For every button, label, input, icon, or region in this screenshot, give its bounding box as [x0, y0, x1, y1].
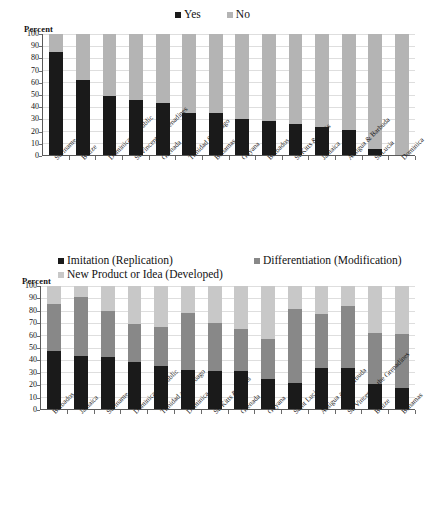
y-axis-tick-label: 0 [17, 406, 37, 414]
bar-segment [368, 286, 382, 333]
bar-segment [341, 286, 355, 306]
chart-one-legend: YesNo [0, 8, 425, 21]
bar-segment [128, 286, 142, 324]
chart-two-bars [41, 286, 415, 409]
legend-item: No [227, 8, 250, 21]
legend-swatch-icon [58, 258, 64, 264]
stacked-bar [395, 34, 409, 155]
chart-one-plot [42, 34, 415, 156]
chart-two-plot-area: 0102030405060708090100 BarbadosJamaicaSu… [18, 286, 415, 410]
y-axis-tick-label: 40 [19, 103, 39, 111]
stacked-bar [49, 34, 63, 155]
bar-group [229, 34, 256, 155]
legend-label: Differentiation (Modification) [263, 254, 402, 267]
legend-swatch-icon [58, 272, 64, 278]
bar-group [96, 34, 123, 155]
bar-segment [395, 286, 409, 334]
y-axis-tick-label: 50 [19, 91, 39, 99]
legend-label: No [236, 8, 250, 21]
stacked-bar [128, 286, 142, 409]
bar-segment [128, 324, 142, 362]
y-axis-tick-label: 100 [19, 30, 39, 38]
y-axis-tick-label: 90 [19, 42, 39, 50]
bar-segment [315, 286, 329, 314]
bar-segment [47, 304, 61, 351]
chart-one-plot-area: 0102030405060708090100 SurinameBelizeDom… [20, 34, 415, 156]
stacked-bar [235, 34, 249, 155]
legend-label: Yes [184, 8, 201, 21]
bar-segment [156, 34, 170, 103]
y-axis-tick-label: 60 [19, 79, 39, 87]
stacked-bar [182, 34, 196, 155]
y-axis-tick-label: 40 [17, 356, 37, 364]
bar-segment [74, 286, 88, 297]
y-axis-tick-label: 90 [17, 294, 37, 302]
stacked-bar [103, 34, 117, 155]
bar-group [281, 286, 308, 409]
stacked-bar [262, 34, 276, 155]
bar-segment [154, 327, 168, 366]
bar-segment [341, 306, 355, 369]
bar-segment [208, 323, 222, 371]
bar-segment [288, 309, 302, 383]
y-axis-tick-label: 50 [17, 344, 37, 352]
chart-one-y-axis: 0102030405060708090100 [20, 34, 42, 156]
chart-innovation-type: Imitation (Replication)Differentiation (… [0, 252, 425, 521]
bar-segment [101, 286, 115, 311]
bar-group [255, 286, 282, 409]
y-axis-tick-label: 100 [17, 282, 37, 290]
bar-segment [76, 34, 90, 80]
y-axis-tick-label: 80 [19, 54, 39, 62]
bar-group [94, 286, 121, 409]
chart-two-legend: Imitation (Replication)Differentiation (… [58, 254, 425, 281]
y-axis-tick-label: 60 [17, 332, 37, 340]
chart-two-x-labels: BarbadosJamaicaSurinameDominican Republi… [40, 410, 415, 480]
stacked-bar [342, 34, 356, 155]
x-axis-tick-mark [415, 410, 416, 414]
figure-page: YesNo Percent 0102030405060708090100 Sur… [0, 0, 425, 521]
bar-segment [129, 34, 143, 100]
bar-segment [49, 52, 63, 155]
bar-segment [103, 96, 117, 155]
chart-two-y-axis: 0102030405060708090100 [18, 286, 40, 410]
y-axis-tick-label: 10 [17, 394, 37, 402]
stacked-bar [208, 286, 222, 409]
bar-segment [261, 286, 275, 339]
stacked-bar [261, 286, 275, 409]
bar-segment [208, 286, 222, 323]
stacked-bar [74, 286, 88, 409]
y-axis-tick-label: 30 [19, 115, 39, 123]
bar-segment [315, 34, 329, 127]
legend-item: Differentiation (Modification) [254, 254, 419, 267]
bar-segment [395, 34, 409, 155]
bar-group [388, 286, 415, 409]
chart-one-bars [43, 34, 415, 155]
legend-item: New Product or Idea (Developed) [58, 268, 318, 281]
bar-group [335, 34, 362, 155]
y-axis-tick-label: 30 [17, 369, 37, 377]
bar-segment [74, 297, 88, 356]
bar-segment [234, 286, 248, 329]
y-axis-tick-label: 10 [19, 140, 39, 148]
bar-segment [315, 314, 329, 368]
bar-group [256, 34, 283, 155]
bar-segment [181, 313, 195, 370]
bar-group [43, 34, 70, 155]
legend-label: Imitation (Replication) [67, 254, 173, 267]
y-axis-tick-label: 70 [17, 319, 37, 327]
stacked-bar [47, 286, 61, 409]
legend-item: Yes [175, 8, 201, 21]
bar-segment [76, 80, 90, 155]
bar-group [176, 34, 203, 155]
stacked-bar [76, 34, 90, 155]
stacked-bar [101, 286, 115, 409]
bar-segment [342, 34, 356, 130]
stacked-bar [289, 34, 303, 155]
bar-segment [262, 34, 276, 121]
bar-segment [288, 286, 302, 309]
bar-segment [182, 34, 196, 113]
stacked-bar [288, 286, 302, 409]
bar-segment [209, 34, 223, 113]
bar-group [41, 286, 68, 409]
bar-segment [261, 339, 275, 380]
